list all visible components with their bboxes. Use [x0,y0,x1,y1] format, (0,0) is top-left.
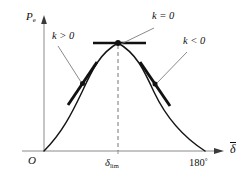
y-axis-label: Pe [26,11,36,24]
y-axis-label-symbol: P [26,10,33,22]
figure-canvas [0,0,247,182]
leader-line-k-zero [121,28,154,44]
x-axis-arrowhead [214,148,224,154]
power-angle-curve [44,43,205,151]
x-tick-label-delta-lim: δlim [105,158,119,169]
delta-lim-subscript: lim [110,162,119,169]
x-tick-180-value: 180 [189,157,205,168]
annotation-k-zero: k = 0 [152,11,174,22]
annotation-k-negative: k < 0 [183,36,205,47]
origin-label: O [28,155,36,166]
tangent-point-k-negative [153,82,158,87]
power-angle-curve-figure: Pe δ k > 0 k = 0 k < 0 O δlim 180° [0,0,247,182]
leader-line-k-negative [157,52,187,83]
y-axis-arrowhead [41,15,47,24]
degree-icon: ° [205,157,208,165]
x-tick-label-180: 180° [189,158,208,169]
x-axis-label-symbol: δ [230,142,236,155]
x-axis-label: δ [230,142,236,155]
y-axis-label-subscript: e [33,16,36,23]
leader-line-k-positive [58,46,81,82]
annotation-k-positive: k > 0 [52,31,74,42]
tangent-point-k-zero [115,40,121,46]
